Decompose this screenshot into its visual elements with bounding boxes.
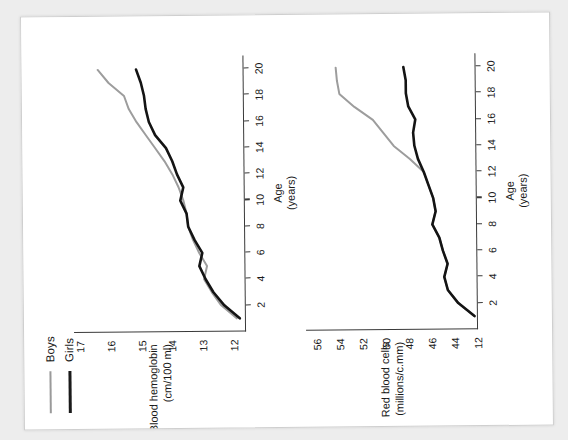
series-lines-blood-hemoglobin — [71, 55, 246, 333]
rotated-figure: Boys Girls Blood hemoglobin (cm/100 — [35, 23, 539, 420]
y-tick-label: 16 — [105, 341, 117, 353]
x-tick-label: 16 — [253, 115, 265, 127]
x-tick — [477, 170, 482, 171]
y-tick-label: 44 — [449, 337, 461, 349]
x-tick-label: 8 — [486, 221, 498, 227]
x-tick — [245, 172, 250, 173]
legend-label-boys: Boys — [44, 336, 56, 362]
x-tick-label: 4 — [487, 273, 499, 279]
x-tick-label: 4 — [255, 276, 267, 282]
figure-sheet: Boys Girls Blood hemoglobin (cm/100 — [20, 11, 554, 430]
x-tick-label: 6 — [254, 249, 266, 255]
plot-area-red-blood-cells: Red blood cells (millions/c.mm) Age (yea… — [303, 53, 478, 331]
x-tick-label: 16 — [485, 113, 497, 125]
x-tick-label: 20 — [252, 63, 264, 75]
x-tick — [476, 144, 481, 145]
x-tick — [244, 94, 249, 95]
chart-panel-blood-hemoglobin: Blood hemoglobin (cm/100 ml) Age (years)… — [71, 25, 289, 419]
x-tick-label: 10 — [486, 192, 498, 204]
x-tick — [244, 67, 249, 68]
x-tick — [244, 120, 249, 121]
x-tick — [245, 225, 250, 226]
y-tick-label: 56 — [312, 339, 324, 351]
x-tick-label: 12 — [253, 168, 265, 180]
legend-swatch-boys-icon — [49, 371, 51, 413]
x-tick-label: 6 — [486, 247, 498, 253]
x-tick — [246, 278, 251, 279]
series-line-boys — [336, 66, 475, 317]
x-tick — [476, 118, 481, 119]
x-tick-label: 18 — [485, 87, 497, 99]
y-axis-title-red-blood-cells: Red blood cells (millions/c.mm) — [378, 342, 407, 417]
x-tick — [477, 249, 482, 250]
y-tick-label: 48 — [403, 338, 415, 350]
series-line-boys — [98, 69, 237, 320]
chart-legend: Boys Girls — [44, 336, 76, 413]
x-tick-label: 8 — [254, 223, 266, 229]
x-tick-label: 14 — [485, 139, 497, 151]
series-lines-red-blood-cells — [303, 53, 478, 331]
x-tick-label: 2 — [255, 302, 267, 308]
legend-item-boys: Boys — [44, 336, 57, 413]
x-tick — [245, 199, 250, 200]
x-tick-label: 10 — [254, 194, 266, 206]
x-tick — [478, 302, 483, 303]
x-tick — [245, 251, 250, 252]
y-tick-label: 46 — [426, 338, 438, 350]
x-tick — [244, 146, 249, 147]
series-line-girls — [403, 66, 474, 316]
y-tick-label: 14 — [166, 340, 178, 352]
x-tick — [478, 275, 483, 276]
page-background: Boys Girls Blood hemoglobin (cm/100 — [0, 0, 568, 440]
x-tick — [477, 197, 482, 198]
x-tick-label: 20 — [484, 60, 496, 72]
y-tick-label: 12 — [472, 337, 484, 349]
x-tick — [477, 223, 482, 224]
x-tick-label: 14 — [253, 141, 265, 153]
x-tick — [476, 91, 481, 92]
legend-swatch-girls-icon — [68, 371, 71, 413]
plot-area-blood-hemoglobin: Blood hemoglobin (cm/100 ml) Age (years)… — [71, 55, 246, 333]
series-line-girls — [136, 69, 240, 320]
x-axis-title-blood-hemoglobin: Age (years) — [271, 176, 299, 210]
y-tick-label: 15 — [136, 340, 148, 352]
x-tick-label: 2 — [487, 300, 499, 306]
x-axis-title-red-blood-cells: Age (years) — [503, 174, 531, 208]
x-tick-label: 12 — [485, 165, 497, 177]
chart-panel-red-blood-cells: Red blood cells (millions/c.mm) Age (yea… — [303, 23, 521, 417]
y-tick-label: 12 — [228, 339, 240, 351]
x-tick — [246, 304, 251, 305]
y-tick-label: 50 — [380, 338, 392, 350]
y-tick-label: 17 — [74, 341, 86, 353]
y-tick-label: 13 — [197, 340, 209, 352]
y-tick-label: 54 — [335, 338, 347, 350]
y-tick-label: 52 — [357, 338, 369, 350]
y-axis-title-blood-hemoglobin: Blood hemoglobin (cm/100 ml) — [146, 344, 175, 430]
x-tick — [476, 65, 481, 66]
x-tick-label: 18 — [253, 89, 265, 101]
